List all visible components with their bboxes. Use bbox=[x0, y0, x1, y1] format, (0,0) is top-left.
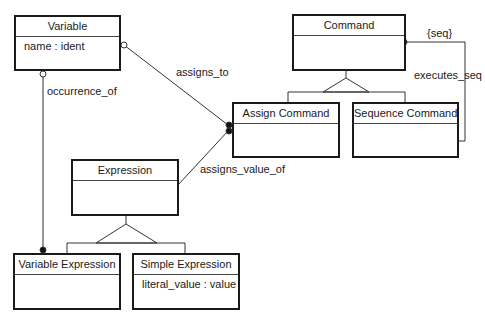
class-simple-expression[interactable]: Simple Expression literal_value : value bbox=[132, 253, 240, 310]
class-name: Variable bbox=[16, 17, 119, 37]
class-name: Variable Expression bbox=[15, 255, 119, 275]
association-label-executes-seq: executes_seq bbox=[414, 69, 482, 81]
class-name: Expression bbox=[73, 161, 177, 181]
class-attribute: name : ident bbox=[16, 37, 119, 52]
class-name: Command bbox=[294, 16, 404, 36]
class-assign-command[interactable]: Assign Command bbox=[232, 102, 340, 158]
class-expression[interactable]: Expression bbox=[71, 159, 179, 216]
class-variable-expression[interactable]: Variable Expression bbox=[13, 253, 121, 310]
hollow-circle-icon bbox=[121, 42, 127, 48]
class-name: Sequence Command bbox=[354, 104, 457, 124]
class-command[interactable]: Command bbox=[292, 14, 406, 71]
association-label-assigns-to: assigns_to bbox=[176, 66, 229, 78]
constraint-label-seq: {seq} bbox=[427, 27, 452, 39]
class-attribute: literal_value : value bbox=[134, 275, 238, 290]
association-label-occurrence-of: occurrence_of bbox=[47, 85, 117, 97]
class-variable[interactable]: Variable name : ident bbox=[14, 15, 121, 71]
hollow-circle-icon bbox=[40, 71, 46, 77]
class-name: Assign Command bbox=[234, 104, 338, 124]
class-name: Simple Expression bbox=[134, 255, 238, 275]
class-sequence-command[interactable]: Sequence Command bbox=[352, 102, 459, 158]
association-label-assigns-value-of: assigns_value_of bbox=[200, 163, 285, 175]
